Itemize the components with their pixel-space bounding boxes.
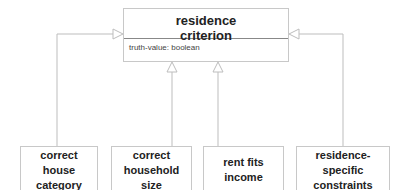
class-title: residence criterion — [124, 9, 288, 39]
generalization-arrow-icon — [289, 29, 299, 39]
label-line2: household size — [112, 163, 191, 191]
label-line2: constraints — [297, 178, 389, 191]
label-line1: residence-specific — [297, 148, 389, 178]
generalization-arrow-icon — [113, 29, 123, 39]
label-line2: income — [223, 170, 263, 185]
class-correct-household-size: correcthousehold size — [111, 146, 192, 190]
class-diagram: residence criterion truth-value: boolean… — [0, 0, 408, 190]
class-title-line1: residence — [124, 13, 288, 28]
connector-house-category — [57, 34, 113, 146]
label-line1: correct — [112, 148, 191, 163]
generalization-arrow-icon — [213, 62, 223, 72]
class-residence-criterion: residence criterion truth-value: boolean — [123, 8, 289, 62]
label-line1: correct — [21, 148, 97, 163]
class-correct-house-category: correcthouse category — [20, 146, 98, 190]
label-line1: rent fits — [223, 155, 263, 170]
generalization-arrow-icon — [167, 62, 177, 72]
connector-residence-specific — [299, 34, 343, 146]
label-line2: house category — [21, 163, 97, 191]
class-rent-fits-income: rent fitsincome — [203, 146, 284, 190]
class-residence-specific-constraints: residence-specificconstraints — [296, 146, 390, 190]
